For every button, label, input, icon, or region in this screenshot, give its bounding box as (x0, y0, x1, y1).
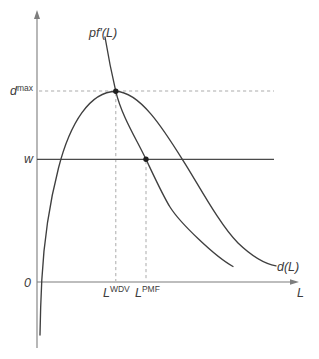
lwdv-tick-label: LWDV (103, 284, 130, 300)
pmf-equilibrium-dot (143, 157, 148, 162)
wage-axis-label: w (24, 152, 34, 166)
dividend-curve (40, 92, 276, 336)
x-axis-label: L (297, 286, 304, 300)
origin-label: 0 (24, 276, 31, 290)
dividend-curve-label: d(L) (277, 260, 299, 274)
dmax-axis-label: dmax (10, 83, 34, 99)
economics-diagram: pf′(L) d(L) dmax w 0 LWDV LPMF L (0, 0, 319, 359)
wdv-equilibrium-dot (113, 89, 118, 94)
marginal-value-product-curve (105, 37, 233, 267)
lpmf-tick-label: LPMF (135, 284, 160, 300)
x-axis-arrowhead-icon (290, 279, 299, 285)
marginal-value-product-curve-label: pf′(L) (88, 26, 117, 40)
y-axis-arrowhead-icon (34, 10, 40, 19)
figure-canvas: pf′(L) d(L) dmax w 0 LWDV LPMF L (0, 0, 319, 359)
